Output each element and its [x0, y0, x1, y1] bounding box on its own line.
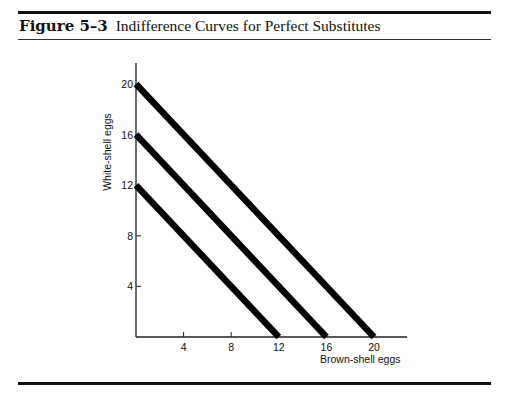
- x-tick-label: 16: [321, 341, 333, 353]
- bottom-rule: [18, 382, 491, 385]
- indifference-chart: 4812162048121620 Brown-shell eggs White-…: [0, 0, 507, 397]
- y-tick-label: 16: [121, 129, 133, 141]
- x-tick-label: 4: [181, 341, 187, 353]
- y-tick-label: 8: [127, 230, 133, 242]
- y-tick-label: 20: [121, 78, 133, 90]
- x-tick-label: 20: [368, 341, 380, 353]
- indifference-curves: [136, 84, 374, 337]
- y-tick-label: 12: [121, 179, 133, 191]
- y-tick-label: 4: [127, 280, 133, 292]
- indifference-curve-2: [136, 135, 326, 337]
- y-axis-label: White-shell eggs: [101, 113, 113, 191]
- x-tick-label: 12: [273, 341, 285, 353]
- x-axis-label: Brown-shell eggs: [320, 353, 401, 365]
- indifference-curve-3: [136, 84, 374, 337]
- axes: [136, 63, 407, 337]
- x-tick-label: 8: [228, 341, 234, 353]
